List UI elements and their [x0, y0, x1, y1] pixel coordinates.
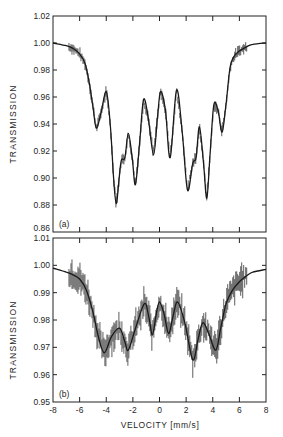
- y-tick-label: 0.98: [33, 65, 50, 75]
- y-tick-label: 0.98: [33, 315, 50, 325]
- y-tick-label: 0.86: [33, 223, 50, 233]
- y-tick-label: 0.96: [33, 92, 50, 102]
- panel-b-y-tick-labels: 0.950.960.970.980.991.001.01: [33, 233, 50, 407]
- panel-b-data-points: [69, 259, 247, 377]
- y-tick-label: 0.90: [33, 173, 50, 183]
- panel-a-y-axis-title: TRANSMISSION: [8, 84, 18, 163]
- panel-b-frame: [53, 238, 266, 402]
- panel-a-ticks: [53, 16, 266, 232]
- x-tick-label: 6: [237, 405, 242, 415]
- y-tick-label: 1.02: [33, 11, 50, 21]
- x-tick-label: -6: [76, 405, 84, 415]
- panel-b-plot: 0.950.960.970.980.991.001.01 -8-6-4-2024…: [8, 233, 269, 430]
- mossbauer-spectra-figure: 0.860.880.900.920.940.960.981.001.02 (a)…: [0, 0, 283, 437]
- y-tick-label: 0.99: [33, 288, 50, 298]
- x-tick-labels: -8-6-4-202468: [49, 405, 268, 415]
- panel-a-y-tick-labels: 0.860.880.900.920.940.960.981.001.02: [33, 11, 50, 233]
- panel-a-plot: 0.860.880.900.920.940.960.981.001.02 (a)…: [8, 11, 266, 233]
- y-tick-label: 1.01: [33, 233, 50, 243]
- y-tick-label: 0.96: [33, 370, 50, 380]
- y-tick-label: 1.00: [33, 38, 50, 48]
- panel-b-y-axis-title: TRANSMISSION: [8, 300, 18, 379]
- x-tick-label: 4: [210, 405, 215, 415]
- x-tick-label: 2: [184, 405, 189, 415]
- y-tick-label: 0.95: [33, 397, 50, 407]
- y-tick-label: 0.92: [33, 146, 50, 156]
- y-tick-label: 0.97: [33, 342, 50, 352]
- x-tick-label: -4: [102, 405, 110, 415]
- panel-b-label: (b): [59, 389, 70, 399]
- y-tick-label: 0.94: [33, 119, 50, 129]
- y-tick-label: 1.00: [33, 260, 50, 270]
- panel-a-frame: [53, 16, 266, 232]
- x-tick-label: -2: [129, 405, 137, 415]
- x-tick-label: 0: [157, 405, 162, 415]
- x-axis-title: VELOCITY [mm/s]: [121, 420, 200, 430]
- y-tick-label: 0.88: [33, 200, 50, 210]
- x-tick-label: 8: [264, 405, 269, 415]
- panel-a-label: (a): [59, 219, 70, 229]
- panel-b-ticks: [53, 238, 266, 402]
- x-tick-label: -8: [49, 405, 57, 415]
